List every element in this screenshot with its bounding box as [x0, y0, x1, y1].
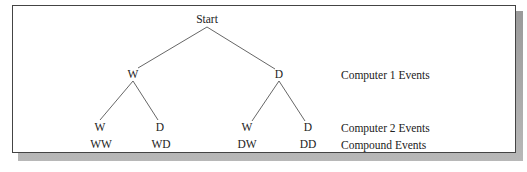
compound-ww: WW	[90, 139, 112, 151]
edge-d-w	[252, 81, 279, 121]
compound-wd: WD	[151, 139, 170, 151]
tree-edges	[0, 0, 527, 172]
node-computer2-dd: D	[304, 122, 312, 134]
edge-d-d	[279, 81, 305, 121]
label-computer2-events: Computer 2 Events	[341, 123, 430, 135]
node-computer1-d: D	[275, 69, 283, 81]
label-computer1-events: Computer 1 Events	[341, 70, 430, 82]
node-computer2-ww: W	[95, 122, 106, 134]
label-compound-events: Compound Events	[341, 140, 426, 152]
edge-w-d	[133, 81, 158, 120]
edge-start-w	[138, 27, 207, 68]
node-computer2-wd: D	[156, 122, 164, 134]
compound-dd: DD	[300, 139, 317, 151]
node-computer2-dw: W	[242, 122, 253, 134]
edge-start-d	[207, 27, 275, 69]
node-start: Start	[196, 14, 218, 26]
compound-dw: DW	[237, 139, 256, 151]
edge-w-w	[100, 81, 133, 120]
node-computer1-w: W	[128, 69, 139, 81]
